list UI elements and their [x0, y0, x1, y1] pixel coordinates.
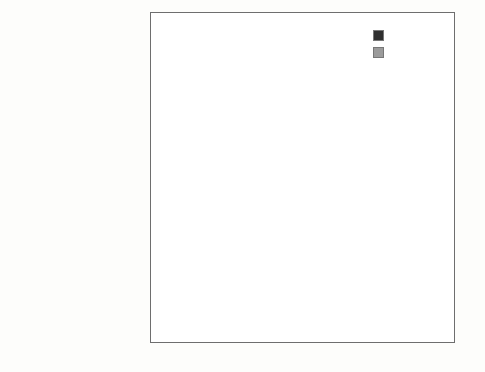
legend-swatch-off-grid-icon	[373, 47, 384, 58]
value-axis	[0, 345, 485, 361]
legend-item-on-grid	[373, 30, 390, 41]
legend-item-off-grid	[373, 47, 390, 58]
legend	[373, 30, 390, 64]
category-axis	[18, 12, 150, 343]
plot-area	[150, 12, 455, 343]
legend-swatch-on-grid-icon	[373, 30, 384, 41]
bar-chart	[0, 0, 485, 372]
